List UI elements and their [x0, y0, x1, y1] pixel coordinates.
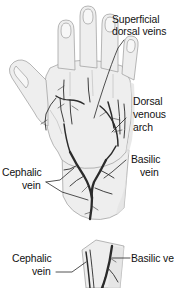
- nail-middle: [83, 9, 93, 24]
- label-superficial-dorsal-veins-line2: dorsal veins: [112, 26, 166, 37]
- label-basilic-vein-upper: Basilic vein: [131, 154, 163, 178]
- label-dorsal-venous-arch-line2: venous: [133, 109, 166, 120]
- label-basilic-vein-upper-line1: Basilic: [131, 154, 160, 165]
- label-cephalic-vein-lower: Cephalic vein: [12, 253, 54, 277]
- nail-little: [127, 39, 135, 52]
- digital-vein-index: [64, 80, 65, 100]
- label-cephalic-vein-lower-line2: vein: [32, 266, 51, 277]
- label-cephalic-vein-upper-line2: vein: [22, 180, 41, 191]
- leader-cephalic-vein-lower: [56, 262, 86, 272]
- label-dorsal-venous-arch-line3: arch: [133, 122, 153, 133]
- label-cephalic-vein-upper: Cephalic vein: [2, 167, 44, 191]
- hand-dorsum-shape: [44, 60, 132, 168]
- label-basilic-vein-upper-line2: vein: [140, 167, 159, 178]
- panel-forearm-detail: Cephalic vein Basilic vein: [12, 240, 174, 288]
- veins-illustration: Superficial dorsal veins Dorsal venous a…: [0, 0, 174, 288]
- nail-index: [61, 23, 71, 38]
- label-superficial-dorsal-veins-line1: Superficial: [112, 14, 159, 25]
- anatomy-figure: Superficial dorsal veins Dorsal venous a…: [0, 0, 174, 288]
- label-dorsal-venous-arch-line1: Dorsal: [133, 96, 162, 107]
- label-superficial-dorsal-veins: Superficial dorsal veins: [112, 14, 166, 37]
- label-basilic-vein-lower: Basilic vein: [131, 253, 174, 264]
- label-cephalic-vein-lower-line1: Cephalic: [12, 253, 52, 264]
- label-basilic-vein-lower-line1: Basilic vein: [131, 253, 174, 264]
- label-dorsal-venous-arch: Dorsal venous arch: [133, 96, 169, 133]
- panel-hand-forearm: Superficial dorsal veins Dorsal venous a…: [2, 6, 169, 220]
- label-cephalic-vein-upper-line1: Cephalic: [2, 167, 42, 178]
